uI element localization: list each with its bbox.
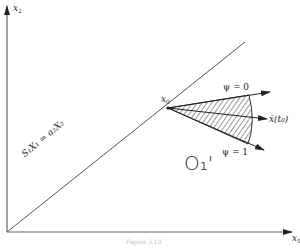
point-x0-label-sub: 0	[166, 98, 170, 105]
ray-psi0-label: ψ = 0	[223, 83, 249, 92]
x2-axis-label: x2	[13, 4, 22, 14]
diagram-figure: x2 x1 x0 ψ = 0 ẋ(t₀) ψ = 1 S₁X₁ = a₂X₂ O…	[0, 0, 300, 248]
point-x0-label: x0	[161, 95, 170, 105]
ray-psi1-label: ψ = 1	[222, 148, 248, 157]
region-label: O₁'	[184, 153, 213, 173]
x1-axis-label-sub: 1	[297, 237, 300, 244]
diagram-canvas	[0, 0, 300, 248]
figure-caption: Figure 3.10	[126, 239, 161, 245]
hatched-cone	[168, 95, 252, 144]
ray-xdot-label: ẋ(t₀)	[269, 115, 288, 124]
x2-axis-label-sub: 2	[18, 7, 22, 14]
point-x0	[166, 106, 169, 109]
x1-axis-label: x1	[292, 234, 300, 244]
